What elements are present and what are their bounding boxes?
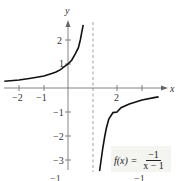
cutoff-text: −1 [134, 173, 145, 181]
y-tick-label: −3 [53, 155, 64, 166]
y-tick-label: −2 [53, 131, 64, 142]
x-tick-label: −1 [36, 92, 47, 103]
formula-denominator: x − 1 [141, 161, 166, 171]
cutoff-text: −1 [50, 173, 61, 181]
x-axis-label: x [169, 83, 175, 94]
x-tick-label: 2 [114, 92, 119, 103]
formula-label: f(x) = −1 x − 1 [114, 150, 166, 171]
x-tick-label: −2 [12, 92, 23, 103]
formula-fraction: −1 x − 1 [141, 150, 166, 171]
y-axis-arrow-icon [66, 20, 71, 27]
x-axis-arrow-icon [161, 86, 168, 91]
curve-left-branch [4, 25, 83, 81]
y-tick-label: −1 [53, 107, 64, 118]
formula-lhs: f(x) = [114, 155, 137, 166]
y-axis-label: y [64, 5, 70, 16]
y-tick-label: 2 [57, 35, 62, 46]
